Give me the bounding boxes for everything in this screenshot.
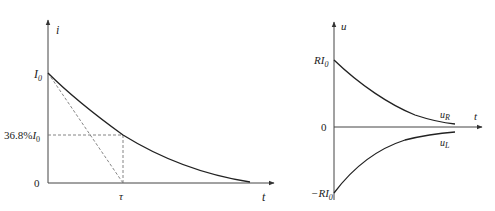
label-36-8-percent-I0: 36.8%I0 — [4, 129, 40, 144]
uR-decay-curve — [334, 60, 455, 124]
right-y-axis-label: u — [341, 20, 347, 32]
uL-rise-curve — [334, 132, 455, 193]
label-I0: I0 — [33, 67, 42, 83]
diagram-canvas: i t I0 36.8%I0 0 τ u t RI0 0 −RI0 uR uL — [0, 0, 495, 211]
left-origin-label: 0 — [34, 177, 40, 189]
left-x-axis-label: t — [262, 190, 266, 204]
label-RI0: RI0 — [313, 54, 328, 69]
right-x-axis-label: t — [474, 110, 478, 122]
tangent-dashed-line — [48, 73, 123, 183]
current-decay-curve — [48, 73, 250, 182]
label-uR: uR — [440, 109, 450, 122]
label-uL: uL — [440, 137, 450, 150]
left-chart: i t I0 36.8%I0 0 τ — [4, 20, 274, 204]
right-origin-label: 0 — [321, 121, 327, 133]
rl-circuit-diagram: i t I0 36.8%I0 0 τ u t RI0 0 −RI0 uR uL — [0, 0, 495, 211]
label-neg-RI0: −RI0 — [311, 187, 333, 202]
label-tau: τ — [119, 190, 124, 202]
right-chart: u t RI0 0 −RI0 uR uL — [311, 20, 482, 202]
left-y-axis-label: i — [56, 23, 59, 37]
